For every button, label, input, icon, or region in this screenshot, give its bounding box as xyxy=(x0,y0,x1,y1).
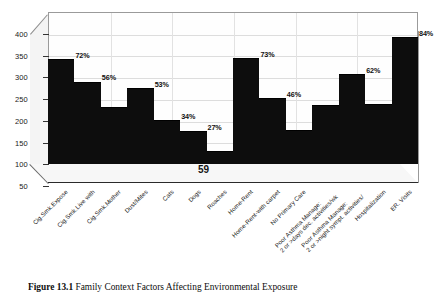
y-axis-tick xyxy=(43,164,49,165)
figure-caption-label: Figure 13.1 xyxy=(28,282,73,292)
bar-value-label: 62% xyxy=(366,66,380,75)
bar xyxy=(127,88,153,164)
bar xyxy=(259,98,285,164)
bar-value-label: 46% xyxy=(287,90,301,99)
bar-value-label: 27% xyxy=(208,123,222,132)
bar xyxy=(207,151,233,164)
y-axis-tick-label: 50 xyxy=(19,182,28,191)
bar xyxy=(392,37,418,164)
bar xyxy=(74,82,100,165)
x-axis-label-line: Dust/Mites xyxy=(123,188,149,214)
x-axis-label: Home-Rent xyxy=(227,188,255,216)
bar-value-label: 34% xyxy=(181,112,195,121)
x-axis-label-line: Home-Rent xyxy=(227,188,255,216)
y-axis-tick xyxy=(43,186,49,187)
y-axis-tick-label: 400 xyxy=(15,30,28,39)
x-axis-label: Dust/Mites xyxy=(123,188,149,214)
bar-series: 72%56%41%53%34%27%15%73%46%27%44%62%43%8… xyxy=(48,12,418,164)
x-axis-label: Dogs xyxy=(186,188,201,203)
bar xyxy=(365,104,391,164)
x-axis-labels: Cig.Smk.ExposeCig.Smk.Live withCig.Smk.M… xyxy=(30,188,430,268)
plot-area: 50100150200250300350400 72%56%41%53%34%2… xyxy=(30,12,422,187)
bar xyxy=(233,58,259,164)
bar-value-label: 73% xyxy=(260,50,274,59)
chart-right-edge xyxy=(418,31,419,183)
bar-chart: 50100150200250300350400 72%56%41%53%34%2… xyxy=(0,8,438,258)
bar xyxy=(154,120,180,164)
axis-annotation: 59 xyxy=(198,164,209,175)
bar xyxy=(312,105,338,164)
y-axis-tick-label: 100 xyxy=(15,160,28,169)
chart-floor xyxy=(30,164,418,183)
bar-value-label: 84% xyxy=(419,29,433,38)
x-axis-label: Home-Rent-with carpet xyxy=(230,188,281,239)
bar-value-label: 72% xyxy=(75,51,89,60)
figure-caption-text: Family Context Factors Affecting Environ… xyxy=(75,282,297,292)
figure-page: 50100150200250300350400 72%56%41%53%34%2… xyxy=(0,0,438,300)
y-axis-tick-label: 350 xyxy=(15,51,28,60)
x-axis-label: Roaches xyxy=(205,188,227,210)
x-axis-label: ER. Visits xyxy=(389,188,413,212)
x-axis-label-line: ER. Visits xyxy=(389,188,413,212)
bar xyxy=(101,107,127,164)
x-axis-label-line: Cats xyxy=(161,188,175,202)
bar xyxy=(48,59,74,164)
y-axis: 50100150200250300350400 xyxy=(30,34,48,183)
x-axis-label-line: Roaches xyxy=(205,188,227,210)
figure-caption: Figure 13.1 Family Context Factors Affec… xyxy=(28,282,428,298)
y-axis-tick-label: 300 xyxy=(15,73,28,82)
bar xyxy=(339,74,365,164)
x-axis-label-line: Dogs xyxy=(186,188,201,203)
bar xyxy=(286,130,312,164)
y-axis-tick-label: 150 xyxy=(15,138,28,147)
y-axis-tick-label: 250 xyxy=(15,95,28,104)
bar-value-label: 53% xyxy=(155,80,169,89)
x-axis-label-line: Home-Rent-with carpet xyxy=(230,188,281,239)
y-axis-tick-label: 200 xyxy=(15,116,28,125)
bar xyxy=(180,131,206,164)
chart-floor-front-edge xyxy=(48,182,418,183)
x-axis-label: Cats xyxy=(161,188,175,202)
bar-value-label: 56% xyxy=(102,73,116,82)
